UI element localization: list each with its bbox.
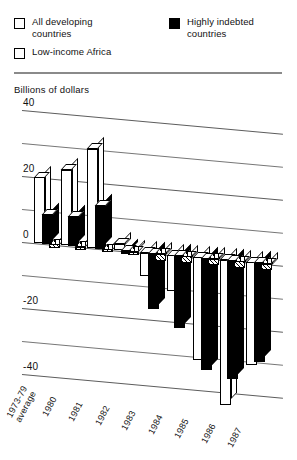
bar-highly-indebted-countries	[42, 214, 53, 244]
x-axis-tick-label: 1985	[172, 417, 191, 440]
bar-low-income-africa	[181, 256, 192, 263]
bar-low-income-africa	[75, 247, 86, 250]
legend-item-all-developing-countries: All developing countries	[14, 16, 93, 39]
bar-highly-indebted-countries	[227, 261, 238, 380]
chart-figure: All developing countries Highly indebted…	[0, 0, 297, 460]
bar-low-income-africa	[155, 254, 166, 261]
x-axis-tick-label: 1981	[66, 400, 85, 423]
x-axis-labels: 1973-79 average1980198119821983198419851…	[0, 398, 297, 460]
legend-swatch-open-icon	[14, 18, 25, 29]
x-axis-tick-label: 1987	[225, 426, 244, 449]
bar-highly-indebted-countries	[174, 256, 185, 329]
legend-label: All developing countries	[32, 16, 93, 39]
legend-label: Low-income Africa	[32, 46, 111, 58]
bar-low-income-africa	[128, 252, 139, 255]
bar-highly-indebted-countries	[148, 253, 159, 309]
bar-highly-indebted-countries	[201, 258, 212, 370]
bar-low-income-africa	[102, 249, 113, 252]
legend-swatch-open-icon	[14, 48, 25, 59]
x-axis-tick-label: 1983	[119, 409, 138, 432]
legend-swatch-filled-icon	[169, 18, 180, 29]
bar-low-income-africa	[261, 264, 272, 271]
bar-series-layer	[0, 96, 297, 416]
x-axis-tick-label: 1984	[146, 413, 165, 436]
legend-divider	[14, 72, 282, 74]
bar-low-income-africa	[234, 261, 245, 268]
legend-label: Highly indebted countries	[187, 16, 254, 39]
plot-area: 40200-20-40	[0, 96, 297, 416]
bar-highly-indebted-countries	[254, 263, 265, 362]
legend-item-low-income-africa: Low-income Africa	[14, 46, 111, 59]
x-axis-tick-label: 1986	[199, 422, 218, 445]
bar-low-income-africa	[49, 244, 60, 247]
chart-legend: All developing countries Highly indebted…	[14, 16, 286, 62]
bar-low-income-africa	[208, 259, 219, 266]
x-axis-tick-label: 1982	[93, 404, 112, 427]
bar-side-face	[238, 249, 244, 373]
legend-item-highly-indebted-countries: Highly indebted countries	[169, 16, 254, 39]
bar-highly-indebted-countries	[68, 216, 79, 246]
y-axis-title: Billions of dollars	[14, 84, 89, 95]
x-axis-tick-label: 1980	[40, 395, 59, 418]
bar-highly-indebted-countries	[95, 206, 106, 249]
